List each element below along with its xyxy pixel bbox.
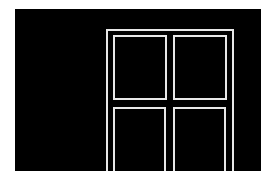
door-panel-top-right <box>173 35 227 100</box>
door-panel-bottom-left <box>113 107 166 171</box>
black-canvas <box>15 9 261 171</box>
door-panel-bottom-right <box>173 107 226 171</box>
door-panel-top-left <box>113 35 167 100</box>
